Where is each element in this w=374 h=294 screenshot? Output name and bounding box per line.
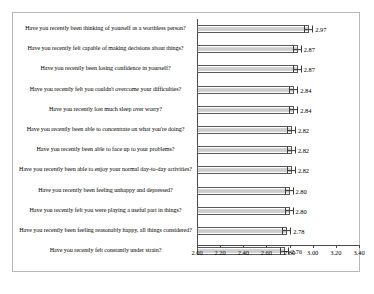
category-label: Have you recently been able to face up t… (15, 147, 196, 154)
error-bar (287, 167, 296, 174)
bar-row: Have you recently felt capable of making… (13, 39, 359, 59)
bar-row: Have you recently been able to face up t… (13, 140, 359, 160)
bar (197, 126, 292, 134)
axis-tick-label: 2.80 (284, 249, 295, 257)
error-bar (289, 86, 298, 93)
error-bar (289, 106, 298, 113)
axis-tick (197, 245, 198, 248)
bar (197, 45, 298, 53)
value-label: 2.87 (304, 46, 315, 53)
bar-zone: 2.82 (197, 140, 359, 160)
bar-zone: 2.87 (197, 59, 359, 79)
error-bar (293, 66, 302, 73)
bar-rows: Have you recently been thinking of yours… (13, 19, 359, 241)
bar-zone: 2.80 (197, 201, 359, 221)
bar-row: Have you recently been able to concentra… (13, 120, 359, 140)
axis-line (197, 245, 359, 246)
error-bar (293, 46, 302, 53)
category-label: Have you recently been losing confidence… (15, 66, 196, 73)
category-label: Have you recently felt you were playing … (15, 207, 196, 214)
value-label: 2.97 (315, 26, 326, 33)
category-label: Have you recently been able to enjoy you… (15, 167, 196, 174)
axis-tick (290, 245, 291, 248)
error-bar (287, 127, 296, 134)
bar-row: Have you recently lost much sleep over w… (13, 100, 359, 120)
error-bar (287, 147, 296, 154)
bar-zone: 2.84 (197, 80, 359, 100)
axis-tick-label: 3.20 (330, 249, 341, 257)
value-axis: 2.002.202.402.602.803.003.203.40 (197, 245, 359, 267)
value-label: 2.84 (300, 106, 311, 113)
bar (197, 187, 290, 195)
bar (197, 25, 309, 33)
error-bar (282, 227, 291, 234)
axis-tick (243, 245, 244, 248)
category-label: Have you recently been feeling reasonabl… (15, 227, 196, 234)
bar-zone: 2.80 (197, 181, 359, 201)
axis-tick-label: 3.00 (307, 249, 318, 257)
bar (197, 166, 292, 174)
bar (197, 65, 298, 73)
bar-zone: 2.82 (197, 160, 359, 180)
plot-area: Have you recently been thinking of yours… (13, 13, 359, 271)
value-label: 2.87 (304, 66, 315, 73)
bar-row: Have you recently been feeling unhappy a… (13, 181, 359, 201)
value-label: 2.82 (298, 167, 309, 174)
bar (197, 207, 290, 215)
category-label: Have you recently lost much sleep over w… (15, 106, 196, 113)
bar-zone: 2.97 (197, 19, 359, 39)
bar-row: Have you recently been able to enjoy you… (13, 160, 359, 180)
category-label: Have you recently felt capable of making… (15, 46, 196, 53)
value-label: 2.82 (298, 147, 309, 154)
bar-row: Have you recently felt you were playing … (13, 201, 359, 221)
category-label: Have you recently been able to concentra… (15, 126, 196, 133)
axis-tick (313, 245, 314, 248)
axis-tick-label: 2.40 (238, 249, 249, 257)
chart-frame: Have you recently been thinking of yours… (12, 12, 360, 272)
value-label: 2.80 (296, 187, 307, 194)
category-label: Have you recently felt you couldn't over… (15, 86, 196, 93)
bar-row: Have you recently felt you couldn't over… (13, 80, 359, 100)
value-label: 2.78 (293, 227, 304, 234)
axis-tick (359, 245, 360, 248)
bar-row: Have you recently been feeling reasonabl… (13, 221, 359, 241)
error-bar (304, 26, 313, 33)
axis-tick (220, 245, 221, 248)
axis-tick-label: 2.60 (261, 249, 272, 257)
axis-tick (266, 245, 267, 248)
bar-zone: 2.78 (197, 221, 359, 241)
category-label: Have you recently felt constantly under … (15, 247, 196, 254)
axis-tick-label: 2.00 (191, 249, 202, 257)
category-label: Have you recently been thinking of yours… (15, 25, 196, 32)
bar (197, 86, 294, 94)
bar (197, 106, 294, 114)
bar (197, 146, 292, 154)
bar-row: Have you recently been losing confidence… (13, 59, 359, 79)
bar-row: Have you recently been thinking of yours… (13, 19, 359, 39)
bar-zone: 2.82 (197, 120, 359, 140)
bar-zone: 2.87 (197, 39, 359, 59)
value-label: 2.84 (300, 86, 311, 93)
value-label: 2.82 (298, 127, 309, 134)
error-bar (285, 207, 294, 214)
bar-zone: 2.84 (197, 100, 359, 120)
axis-tick-label: 2.20 (215, 249, 226, 257)
value-label: 2.80 (296, 207, 307, 214)
axis-tick (336, 245, 337, 248)
axis-tick-label: 3.40 (353, 249, 364, 257)
bar (197, 227, 287, 235)
category-label: Have you recently been feeling unhappy a… (15, 187, 196, 194)
error-bar (285, 187, 294, 194)
